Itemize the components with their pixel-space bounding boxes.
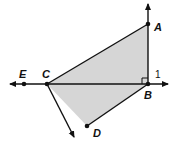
label-e: E [19,68,27,80]
label-c: C [42,68,51,80]
point-d [85,124,90,129]
point-b [146,82,151,87]
label-d: D [93,127,101,139]
point-c [45,82,50,87]
geometry-diagram: A B C D E 1 [0,0,177,145]
point-a [146,22,151,27]
angle-label-1: 1 [155,69,161,80]
label-b: B [144,89,152,101]
point-e [22,82,27,87]
label-a: A [153,21,162,33]
